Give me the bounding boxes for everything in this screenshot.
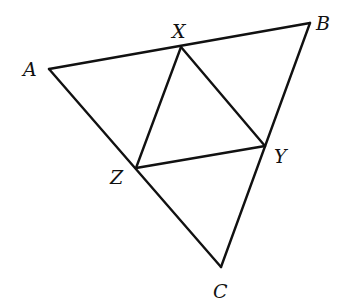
segment-xy: [181, 47, 265, 146]
segment-zx: [136, 47, 181, 168]
label-b: B: [315, 12, 330, 34]
segment-yz: [136, 146, 265, 168]
label-c: C: [213, 280, 228, 302]
label-x: X: [170, 20, 187, 42]
label-a: A: [21, 58, 37, 80]
label-y: Y: [274, 145, 289, 167]
label-z: Z: [109, 166, 124, 188]
triangle-diagram: A B C X Y Z: [0, 0, 350, 307]
